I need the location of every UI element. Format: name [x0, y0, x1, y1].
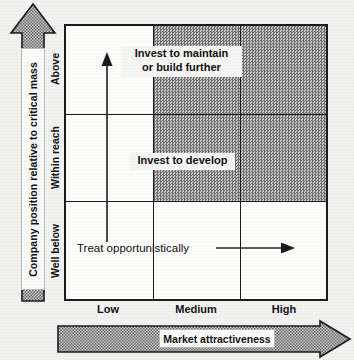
x-tick-high: High [240, 302, 328, 318]
callout-treat-opportunistically: Treat opportunistically [73, 240, 216, 257]
callout-invest-to-maintain: Invest to maintain or build further [121, 46, 242, 77]
x-axis-tick-labels: Low Medium High [64, 302, 328, 318]
y-axis-title: Company position relative to critical ma… [27, 62, 39, 277]
y-tick-well-below: Well below [47, 202, 63, 300]
cell-high-above [239, 26, 326, 115]
x-axis-title-box: Market attractiveness [159, 329, 275, 348]
y-tick-above: Above [47, 24, 63, 114]
y-tick-within-reach: Within reach [47, 114, 63, 200]
callout-invest-to-develop: Invest to develop [130, 153, 235, 170]
x-tick-low: Low [64, 302, 152, 318]
right-arrow-annotation [216, 240, 296, 256]
x-axis-title: Market attractiveness [163, 333, 270, 345]
figure-root: Company position relative to critical ma… [0, 0, 354, 360]
x-tick-medium: Medium [152, 302, 240, 318]
cell-high-within-reach [239, 115, 326, 202]
y-axis-title-box: Company position relative to critical ma… [21, 48, 45, 290]
up-arrow-annotation [98, 52, 116, 242]
y-axis-tick-labels: Above Within reach Well below [47, 22, 63, 302]
